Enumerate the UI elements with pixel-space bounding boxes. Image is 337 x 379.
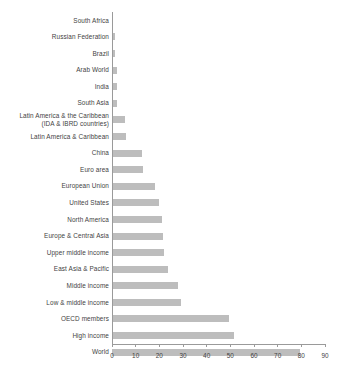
category-label: Latin America & Caribbean <box>0 133 109 141</box>
bar-row: Arab World <box>0 62 337 79</box>
bar-row: Middle income <box>0 278 337 295</box>
x-axis-tick <box>301 344 302 347</box>
category-label: Europe & Central Asia <box>0 232 109 240</box>
bar-track <box>112 116 125 123</box>
bar-track <box>112 199 159 206</box>
bar <box>112 199 159 206</box>
bar-row: Latin America & the Caribbean (IDA & IBR… <box>0 112 337 129</box>
x-axis-tick-label: 50 <box>227 352 234 359</box>
x-axis-tick-label: 20 <box>156 352 163 359</box>
x-axis-tick-label: 10 <box>132 352 139 359</box>
bar-track <box>112 83 117 90</box>
bar-row: Europe & Central Asia <box>0 228 337 245</box>
bar-track <box>112 299 181 306</box>
bar-track <box>112 216 162 223</box>
bar-track <box>112 150 142 157</box>
bar-chart: South AfricaRussian FederationBrazilArab… <box>0 0 337 379</box>
bar <box>112 249 164 256</box>
category-label: Low & middle income <box>0 299 109 307</box>
bar-row: United States <box>0 195 337 212</box>
x-axis-tick <box>325 344 326 347</box>
bar <box>112 332 234 339</box>
bar-track <box>112 315 229 322</box>
bar-track <box>112 67 117 74</box>
category-label: World <box>0 348 109 356</box>
bar-track <box>112 166 143 173</box>
bar-track <box>112 282 178 289</box>
category-label: South Africa <box>0 17 109 25</box>
category-label: Russian Federation <box>0 33 109 41</box>
bar <box>112 133 126 140</box>
bar <box>112 216 162 223</box>
bar-row: India <box>0 78 337 95</box>
category-label: Middle income <box>0 282 109 290</box>
category-label: Upper middle income <box>0 249 109 257</box>
x-axis-line <box>112 344 325 345</box>
bar-track <box>112 332 234 339</box>
bar-row: East Asia & Pacific <box>0 261 337 278</box>
bar-track <box>112 249 164 256</box>
bar <box>112 83 117 90</box>
x-axis-tick-label: 90 <box>321 352 328 359</box>
bar-track <box>112 266 168 273</box>
x-axis-tick <box>206 344 207 347</box>
category-label: High income <box>0 332 109 340</box>
category-label: China <box>0 149 109 157</box>
x-axis-tick <box>230 344 231 347</box>
category-label: India <box>0 83 109 91</box>
x-axis-tick-label: 80 <box>298 352 305 359</box>
bar <box>112 183 155 190</box>
bar <box>112 150 142 157</box>
bar-row: Upper middle income <box>0 244 337 261</box>
category-label: Arab World <box>0 66 109 74</box>
bar-row: China <box>0 145 337 162</box>
bar-row: Russian Federation <box>0 29 337 46</box>
x-axis-tick <box>112 344 113 347</box>
category-label: European Union <box>0 182 109 190</box>
bar-row: Low & middle income <box>0 294 337 311</box>
x-axis-tick <box>135 344 136 347</box>
x-axis-tick-label: 60 <box>250 352 257 359</box>
x-axis-tick <box>254 344 255 347</box>
bar-track <box>112 100 117 107</box>
bar <box>112 233 163 240</box>
category-label: Latin America & the Caribbean (IDA & IBR… <box>0 112 109 127</box>
x-axis-tick <box>159 344 160 347</box>
bar-row: Brazil <box>0 45 337 62</box>
bar <box>112 299 181 306</box>
bar-track <box>112 233 163 240</box>
chart-rows: South AfricaRussian FederationBrazilArab… <box>0 12 337 360</box>
bar-row: South Asia <box>0 95 337 112</box>
x-axis-tick-label: 40 <box>203 352 210 359</box>
x-axis-tick <box>277 344 278 347</box>
bar <box>112 282 178 289</box>
category-label: East Asia & Pacific <box>0 265 109 273</box>
bar-row: South Africa <box>0 12 337 29</box>
bar-row: High income <box>0 327 337 344</box>
bar <box>112 116 125 123</box>
bar-row: North America <box>0 211 337 228</box>
category-label: OECD members <box>0 315 109 323</box>
category-label: Euro area <box>0 166 109 174</box>
y-axis-line <box>112 12 113 344</box>
x-axis-tick-label: 0 <box>110 352 114 359</box>
bar <box>112 67 117 74</box>
category-label: Brazil <box>0 50 109 58</box>
bar-row: Euro area <box>0 161 337 178</box>
x-axis-tick-label: 30 <box>179 352 186 359</box>
bar <box>112 315 229 322</box>
category-label: United States <box>0 199 109 207</box>
bar-row: European Union <box>0 178 337 195</box>
bar-row: OECD members <box>0 311 337 328</box>
bar-track <box>112 133 126 140</box>
category-label: South Asia <box>0 99 109 107</box>
bar <box>112 166 143 173</box>
bar <box>112 100 117 107</box>
bar-row: World <box>0 344 337 361</box>
category-label: North America <box>0 216 109 224</box>
bar-track <box>112 183 155 190</box>
x-axis-tick-label: 70 <box>274 352 281 359</box>
bar <box>112 266 168 273</box>
bar-row: Latin America & Caribbean <box>0 128 337 145</box>
x-axis-tick <box>183 344 184 347</box>
